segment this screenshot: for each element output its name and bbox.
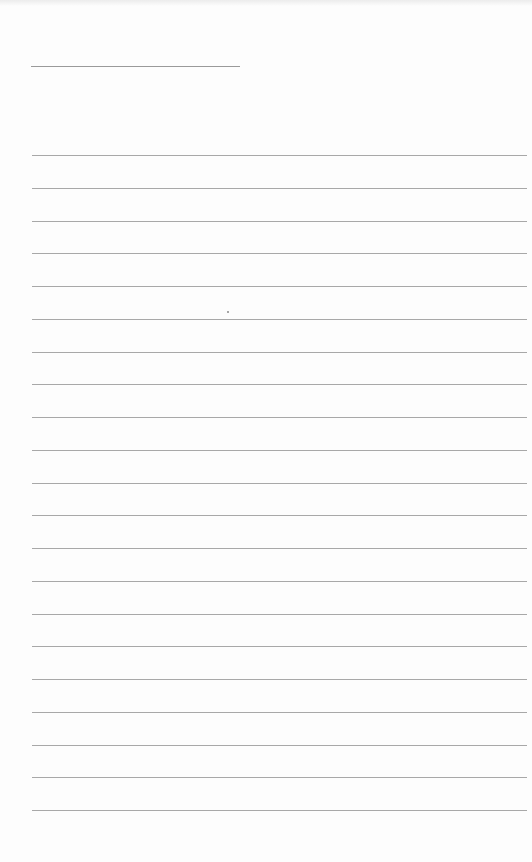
- ruled-line: [32, 515, 527, 516]
- ruled-line: [32, 221, 527, 222]
- ruled-line: [32, 614, 527, 615]
- ruled-line: [32, 745, 527, 746]
- ruled-line: [32, 450, 527, 451]
- ruled-line: [32, 417, 527, 418]
- header-line: [31, 66, 240, 67]
- page-top-shadow: [0, 0, 532, 6]
- ruled-line: [32, 253, 527, 254]
- ruled-line: [32, 483, 527, 484]
- ruled-line: [32, 777, 527, 778]
- ruled-line: [32, 352, 527, 353]
- ruled-line: [32, 384, 527, 385]
- ruled-line: [32, 188, 527, 189]
- ruled-line: [32, 548, 527, 549]
- ruled-line: [32, 319, 527, 320]
- ruled-line: [32, 155, 527, 156]
- ruled-line: [32, 646, 527, 647]
- ruled-line: [32, 581, 527, 582]
- paper-speck: [227, 311, 229, 313]
- ruled-line: [32, 286, 527, 287]
- ruled-line: [32, 712, 527, 713]
- ruled-line: [32, 679, 527, 680]
- ruled-line: [32, 810, 527, 811]
